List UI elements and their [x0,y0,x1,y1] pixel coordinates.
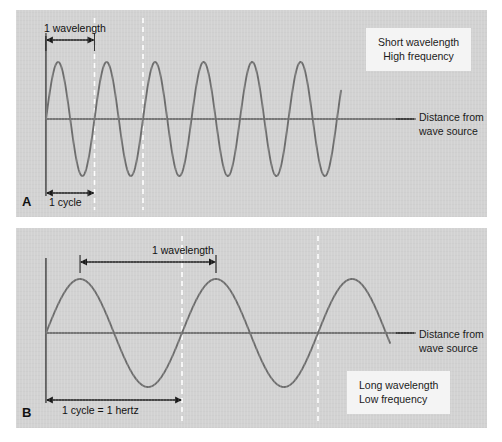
panel-a-callout: Short wavelength High frequency [366,28,471,71]
panel-a-axis-label: Distance from wave source [419,110,484,138]
panel-a-letter: A [22,194,31,209]
panel-b-callout-line1: Long wavelength [359,378,438,392]
panel-b-callout: Long wavelength Low frequency [347,371,450,414]
panel-a-wavelength-label: 1 wavelength [44,22,106,34]
panel-b-axis-label-line2: wave source [419,341,484,355]
panel-a-callout-line1: Short wavelength [378,35,459,49]
panel-b-cycle-label: 1 cycle = 1 hertz [62,404,139,416]
panel-a-cycle-label: 1 cycle [49,196,82,208]
panel-b-callout-line2: Low frequency [359,392,438,406]
panel-b-axis-label: Distance from wave source [419,327,484,355]
panel-a-callout-line2: High frequency [378,49,459,63]
panel-b-axis-label-line1: Distance from [419,327,484,341]
panel-b-letter: B [22,405,31,420]
wave-frequency-figure: 1 wavelength 1 cycle A Short wavelength … [0,0,502,442]
panel-a-axis-label-line1: Distance from [419,110,484,124]
panel-b-wavelength-label: 1 wavelength [152,244,214,256]
panel-a-axis-label-line2: wave source [419,124,484,138]
